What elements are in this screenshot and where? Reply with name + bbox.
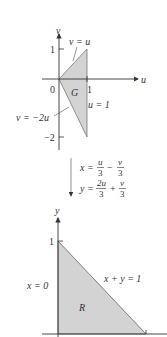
origin-label: 0 bbox=[50, 84, 55, 95]
y-eq-term2-den: 3 bbox=[120, 189, 125, 199]
x-eq-term1-num: u bbox=[98, 157, 103, 167]
xy-plane-diagram: y 1 x = 0 x + y = 1 R bbox=[26, 205, 167, 337]
x-eq-lhs: x = bbox=[79, 162, 94, 173]
uv-plane-diagram: v u 0 1 1 −2 G v = u u = 1 v = −2u bbox=[16, 25, 146, 150]
transformation: x = u 3 − v 3 y = 2u 3 + v 3 bbox=[71, 157, 126, 199]
v-tick-1-label: 1 bbox=[50, 44, 55, 55]
line-x-plus-y-eq-1-label: x + y = 1 bbox=[103, 273, 141, 284]
change-of-variables-figure: v u 0 1 1 −2 G v = u u = 1 v = −2u x = u… bbox=[0, 0, 167, 337]
y-axis-label: y bbox=[54, 205, 60, 216]
y-tick-1-label: 1 bbox=[49, 236, 54, 247]
y-eq-term2-num: v bbox=[120, 178, 124, 188]
line-v-eq-neg2u-label: v = −2u bbox=[16, 112, 49, 123]
line-u-eq-1-label: u = 1 bbox=[88, 99, 110, 110]
region-r-label: R bbox=[78, 302, 85, 313]
x-eq-term1-den: 3 bbox=[98, 168, 103, 178]
v-axis-label: v bbox=[56, 25, 61, 36]
line-x-eq-0-label: x = 0 bbox=[26, 280, 48, 291]
line-v-eq-u-label: v = u bbox=[69, 36, 90, 47]
y-eq-term1-num: 2u bbox=[97, 178, 107, 188]
y-eq-lhs: y = bbox=[79, 183, 94, 194]
leader-v-eq-u bbox=[73, 47, 77, 61]
v-tick-neg2-label: −2 bbox=[44, 132, 55, 143]
x-eq-term2-num: v bbox=[118, 157, 122, 167]
y-eq-term1-den: 3 bbox=[99, 189, 104, 199]
y-eq-op: + bbox=[110, 183, 116, 194]
region-r bbox=[58, 241, 146, 334]
x-eq-term2-den: 3 bbox=[118, 168, 123, 178]
u-axis-label: u bbox=[141, 74, 146, 85]
leader-v-eq-neg2u bbox=[54, 107, 69, 116]
u-tick-1-label: 1 bbox=[87, 84, 92, 95]
region-g-label: G bbox=[71, 87, 78, 98]
x-eq-op: − bbox=[107, 162, 113, 173]
